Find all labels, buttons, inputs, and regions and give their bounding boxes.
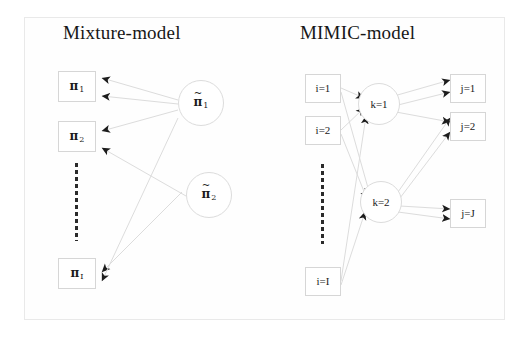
- node-i-2-label: i=2: [316, 125, 331, 136]
- node-pi-I: πI: [58, 258, 96, 289]
- node-j-2: j=2: [450, 112, 486, 141]
- node-i-2: i=2: [305, 116, 341, 145]
- node-i-I: i=I: [305, 267, 341, 296]
- node-pi-2: π2: [58, 121, 96, 152]
- mixture-vertical-ellipsis: [75, 163, 78, 241]
- node-pi-1-label: π1: [70, 80, 85, 94]
- node-k-2-label: k=2: [372, 197, 389, 208]
- node-j-2-label: j=2: [461, 121, 476, 132]
- mixture-model-title: Mixture-model: [63, 22, 181, 44]
- node-j-J: j=J: [450, 199, 486, 228]
- node-pi-1: π1: [58, 71, 96, 102]
- node-j-1-label: j=1: [461, 83, 476, 94]
- node-pi-tilde-1: π~1: [178, 80, 224, 126]
- mimic-model-title: MIMIC-model: [300, 22, 415, 44]
- node-i-1-label: i=1: [316, 83, 331, 94]
- node-j-1: j=1: [450, 74, 486, 103]
- node-k-1-label: k=1: [370, 99, 387, 110]
- node-k-1: k=1: [358, 83, 400, 125]
- node-pi-tilde-1-label: π~1: [194, 96, 209, 110]
- node-j-J-label: j=J: [461, 208, 475, 219]
- node-k-2: k=2: [360, 181, 402, 223]
- figure-canvas: Mixture-model π1 π2 πI π~1 π~2 MIMIC-mod…: [0, 0, 530, 350]
- node-i-I-label: i=I: [317, 276, 330, 287]
- figure-frame: [24, 17, 505, 320]
- node-pi-tilde-2: π~2: [186, 172, 232, 218]
- node-pi-2-label: π2: [70, 130, 85, 144]
- node-pi-tilde-2-label: π~2: [202, 188, 217, 202]
- node-pi-I-label: πI: [71, 267, 84, 281]
- mimic-vertical-ellipsis: [321, 164, 324, 244]
- node-i-1: i=1: [305, 74, 341, 103]
